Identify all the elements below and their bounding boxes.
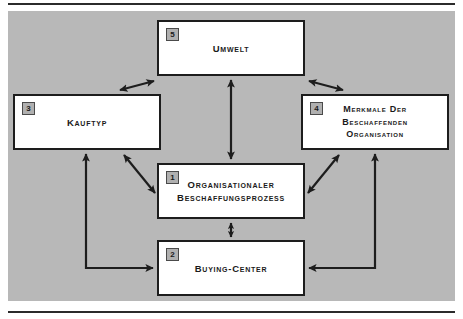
node-badge-prozess: 1 (166, 171, 179, 184)
node-label-prozess: Organisationaler Beschaffungsprozess (171, 178, 291, 204)
connector-kauftyp-prozess (124, 155, 155, 193)
connector-buyingcenter-kauftyp (86, 154, 153, 268)
node-badge-kauftyp: 3 (22, 102, 35, 115)
rule-top (8, 3, 455, 5)
node-umwelt[interactable]: 5 Umwelt (157, 20, 305, 76)
rule-bottom (8, 311, 455, 313)
node-kauftyp[interactable]: 3 Kauftyp (13, 94, 161, 150)
connector-umwelt-merkmale (309, 81, 343, 90)
node-badge-umwelt: 5 (166, 28, 179, 41)
node-label-kauftyp: Kauftyp (61, 116, 113, 129)
connector-umwelt-kauftyp (120, 81, 154, 90)
diagram-panel: 5 Umwelt 3 Kauftyp 4 Merkmale der bescha… (8, 11, 455, 301)
node-merkmale[interactable]: 4 Merkmale der beschaffenden Organisatio… (301, 94, 449, 150)
node-label-merkmale: Merkmale der beschaffenden Organisation (336, 103, 414, 141)
node-badge-buyingcenter: 2 (166, 248, 179, 261)
figure-page: 5 Umwelt 3 Kauftyp 4 Merkmale der bescha… (0, 0, 463, 319)
node-buying-center[interactable]: 2 Buying-Center (157, 240, 305, 296)
node-label-umwelt: Umwelt (207, 42, 256, 55)
node-label-buyingcenter: Buying-Center (189, 262, 274, 275)
node-organisationaler-beschaffungsprozess[interactable]: 1 Organisationaler Beschaffungsprozess (157, 163, 305, 219)
connector-merkmale-buyingcenter (309, 154, 375, 268)
node-badge-merkmale: 4 (310, 102, 323, 115)
connector-merkmale-prozess (308, 155, 339, 193)
